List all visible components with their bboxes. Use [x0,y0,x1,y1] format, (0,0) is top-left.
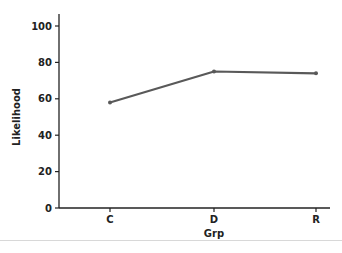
data-point [314,71,318,75]
y-axis-title: Likelihood [11,88,22,146]
x-axis-title: Grp [204,228,224,239]
x-axis: CDR [59,208,330,225]
line-chart: 020406080100 CDR Likelihood Grp [0,0,342,253]
data-point [108,100,112,104]
bottom-divider [0,240,342,241]
y-tick-label: 60 [38,93,52,104]
x-tick-label: D [210,214,218,225]
y-tick-label: 40 [38,130,52,141]
series-line [110,72,316,103]
x-tick-label: R [312,214,320,225]
y-tick-label: 20 [38,166,52,177]
y-tick-label: 100 [31,21,52,32]
y-tick-label: 0 [45,203,52,214]
y-axis: 020406080100 [31,14,59,214]
data-series [108,70,318,105]
y-tick-label: 80 [38,57,52,68]
x-tick-label: C [106,214,113,225]
data-point [212,70,216,74]
